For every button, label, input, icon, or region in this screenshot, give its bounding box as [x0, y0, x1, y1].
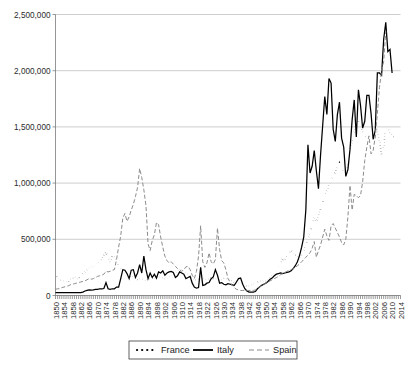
x-axis: 1850185418581862186618701874187818821886… — [52, 296, 406, 319]
series-line-spain — [56, 31, 386, 290]
y-tick-label: 1,000,000 — [14, 179, 51, 188]
y-tick-label: 2,500,000 — [14, 11, 51, 20]
legend-label-spain[interactable]: Spain — [273, 345, 297, 355]
data-series — [56, 22, 395, 292]
line-chart: 0500,0001,000,0001,500,0002,000,0002,500… — [0, 0, 418, 365]
y-tick-label: 2,000,000 — [14, 67, 51, 76]
y-tick-label: 1,500,000 — [14, 123, 51, 132]
series-line-italy — [56, 22, 393, 292]
x-tick-label: 2014 — [397, 302, 406, 319]
y-axis: 0500,0001,000,0001,500,0002,000,0002,500… — [14, 11, 55, 301]
legend-label-italy[interactable]: Italy — [217, 345, 234, 355]
y-tick-label: 0 — [46, 292, 51, 301]
y-tick-label: 500,000 — [21, 235, 51, 244]
legend-label-france[interactable]: France — [161, 345, 190, 355]
chart-legend: FranceItalySpain — [129, 341, 297, 359]
gridlines — [56, 15, 401, 296]
chart-container: 0500,0001,000,0001,500,0002,000,0002,500… — [0, 0, 418, 365]
